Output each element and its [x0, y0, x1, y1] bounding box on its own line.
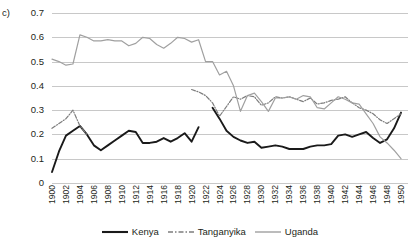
- x-tick-label: 1926: [229, 185, 238, 204]
- y-tick-label: 0.2: [31, 129, 44, 139]
- series-layer: [52, 13, 408, 183]
- x-tick-label: 1918: [174, 185, 183, 204]
- x-tick-label: 1912: [132, 185, 141, 204]
- x-tick-label: 1944: [355, 185, 364, 204]
- x-tick-label: 1930: [257, 185, 266, 204]
- x-tick-label: 1948: [383, 185, 392, 204]
- legend-label: Kenya: [132, 226, 159, 237]
- series-line-uganda: [52, 35, 401, 159]
- x-tick-label: 1942: [341, 185, 350, 204]
- x-axis: 1900190219041906190819101912191419161918…: [52, 185, 408, 223]
- x-tick-label: 1904: [76, 185, 85, 204]
- y-tick-label: 0.6: [31, 32, 44, 42]
- legend: KenyaTanganyikaUganda: [0, 226, 420, 237]
- x-tick-label: 1922: [202, 185, 211, 204]
- y-axis: 00.10.20.30.40.50.60.7: [0, 13, 48, 183]
- x-tick-label: 1914: [146, 185, 155, 204]
- legend-entry-tanganyika[interactable]: Tanganyika: [168, 226, 246, 237]
- y-tick-label: 0.5: [31, 57, 44, 67]
- x-tick-label: 1936: [299, 185, 308, 204]
- series-line-kenya: [52, 126, 199, 172]
- x-tick-label: 1932: [271, 185, 280, 204]
- series-line-tanganyika: [52, 110, 87, 134]
- legend-entry-kenya[interactable]: Kenya: [102, 226, 159, 237]
- legend-entry-uganda[interactable]: Uganda: [255, 226, 318, 237]
- gridline: [52, 183, 408, 184]
- legend-label: Uganda: [285, 226, 318, 237]
- x-tick-label: 1950: [397, 185, 406, 204]
- y-tick-label: 0.1: [31, 154, 44, 164]
- x-tick-label: 1916: [160, 185, 169, 204]
- y-tick-label: 0: [39, 178, 44, 188]
- x-tick-label: 1938: [313, 185, 322, 204]
- x-tick-label: 1902: [62, 185, 71, 204]
- chart-figure: c) 00.10.20.30.40.50.60.7 19001902190419…: [0, 0, 420, 246]
- x-tick-label: 1928: [243, 185, 252, 204]
- y-tick-label: 0.3: [31, 105, 44, 115]
- legend-label: Tanganyika: [198, 226, 246, 237]
- x-tick-label: 1924: [216, 185, 225, 204]
- dash-dot-line-swatch: [168, 228, 194, 236]
- solid-line-swatch: [102, 228, 128, 236]
- x-tick-label: 1940: [327, 185, 336, 204]
- x-tick-label: 1908: [104, 185, 113, 204]
- solid-gray-line-swatch: [255, 228, 281, 236]
- x-tick-label: 1946: [369, 185, 378, 204]
- x-tick-label: 1934: [285, 185, 294, 204]
- x-tick-label: 1906: [90, 185, 99, 204]
- y-tick-label: 0.4: [31, 81, 44, 91]
- plot-area: [52, 13, 408, 183]
- x-tick-label: 1910: [118, 185, 127, 204]
- x-tick-label: 1920: [188, 185, 197, 204]
- y-tick-label: 0.7: [31, 8, 44, 18]
- x-tick-label: 1900: [48, 185, 57, 204]
